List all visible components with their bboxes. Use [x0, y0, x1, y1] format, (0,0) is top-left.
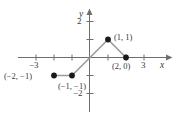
graph-figure: y x 2 −2 −3 3 (−2, −1) (−1, −1) (1, 1) (… [0, 0, 180, 120]
x-tick-label-3: 3 [141, 61, 146, 70]
x-tick-label-neg3: −3 [29, 61, 39, 70]
y-tick-label-2: 2 [77, 17, 82, 26]
point-label-neg1-neg1: (−1, −1) [58, 82, 86, 91]
data-point-neg1-neg1 [69, 73, 75, 79]
coordinate-plane [0, 0, 180, 120]
point-label-1-1: (1, 1) [114, 33, 132, 42]
data-point-1-1 [105, 37, 111, 43]
point-label-2-0: (2, 0) [112, 62, 130, 71]
x-axis-label: x [160, 61, 164, 71]
point-label-neg2-neg1: (−2, −1) [4, 72, 32, 81]
x-axis [18, 55, 173, 61]
data-point-neg2-neg1 [51, 73, 57, 79]
data-point-2-0 [123, 55, 129, 61]
